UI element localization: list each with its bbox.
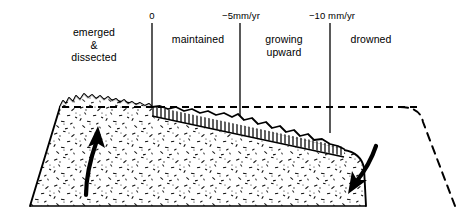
rate-label-minus5: −5mm/yr xyxy=(206,10,276,21)
rate-label-minus10: −10 mm/yr xyxy=(296,10,368,21)
diagram-canvas xyxy=(0,0,465,221)
rate-label-0: 0 xyxy=(138,10,166,21)
reef-response-figure: emerged & dissected maintained growing u… xyxy=(0,0,465,221)
former-island-outline xyxy=(400,107,455,206)
